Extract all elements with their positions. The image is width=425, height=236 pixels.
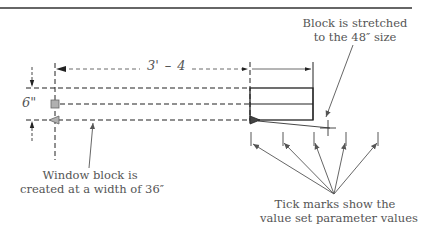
- stretched-callout-label: Block is stretched to the 48″ size: [290, 16, 420, 44]
- ticks-callout-arrows: [253, 143, 377, 194]
- left-stretch-grip-icon[interactable]: [49, 116, 59, 124]
- right-stretch-grip-icon[interactable]: [250, 116, 260, 124]
- height-dimension-label: 6": [22, 95, 36, 110]
- created-callout-arrow: [89, 123, 93, 168]
- width-feet: 3': [147, 58, 159, 73]
- width-dimension-label: 3'–4: [145, 58, 188, 73]
- base-point-grip-icon[interactable]: [51, 100, 59, 108]
- dimension-start-arrow: [56, 66, 66, 72]
- width-inches: 4: [177, 58, 185, 73]
- value-set-tick-marks: [251, 132, 378, 146]
- stretched-callout-arrow: [326, 45, 353, 117]
- created-callout-label: Window block is created at a width of 36…: [20, 168, 160, 196]
- stretch-drag-line: [258, 121, 330, 128]
- ticks-callout-label: Tick marks show the value set parameter …: [260, 197, 410, 225]
